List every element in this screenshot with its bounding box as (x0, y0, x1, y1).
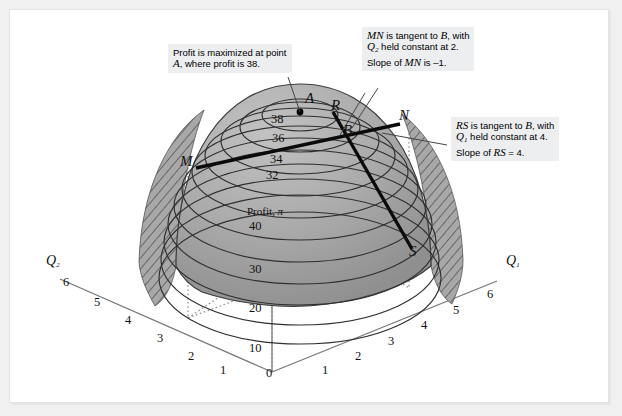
callout-mn-line3: Slope of MN is –1. (367, 57, 469, 68)
profit-axis-label: Profit, π (247, 205, 283, 217)
profit-tick-10: 10 (249, 341, 262, 356)
callout-mn-text1b: , with (447, 30, 469, 41)
profit-tick-30: 30 (249, 262, 262, 277)
callout-rs-line3: Slope of RS = 4. (456, 147, 554, 158)
callout-mn-text3b: is –1. (421, 57, 446, 68)
q1-tick-1: 1 (322, 363, 328, 378)
callout-profit-max: Profit is maximized at point A, where pr… (168, 44, 292, 73)
q1-tick-2: 2 (355, 349, 361, 364)
q1-axis-name: Q (506, 253, 516, 268)
q2-tick-4: 4 (125, 313, 131, 328)
q2-tick-6: 6 (63, 275, 69, 290)
callout-rs-line2: Q1 held constant at 4. (456, 131, 554, 146)
contour-label-34: 34 (270, 152, 283, 167)
point-S-label: S (409, 243, 417, 260)
profit-axis-label-text: Profit, (247, 205, 278, 217)
q2-tick-5: 5 (94, 295, 100, 310)
origin-label: 0 (266, 366, 272, 381)
callout-profit-max-line2: A, where profit is 38. (173, 58, 287, 69)
contour-label-38: 38 (271, 112, 284, 127)
callout-mn-text3a: Slope of (367, 57, 405, 68)
callout-rs-B: B (525, 119, 532, 131)
callout-rs-Q: Q (456, 130, 464, 142)
callout-rs-line1: RS is tangent to B, with (456, 120, 554, 131)
q2-tick-2: 2 (188, 349, 194, 364)
point-M-label: M (180, 153, 193, 170)
callout-rs-text1b: , with (532, 120, 554, 131)
figure-canvas (0, 0, 622, 416)
callout-mn-text1: is tangent to (384, 30, 441, 41)
callout-rs-text3b: = 4. (506, 147, 525, 158)
q1-tick-3: 3 (388, 334, 394, 349)
profit-hill-figure: Profit is maximized at point A, where pr… (0, 0, 622, 416)
callout-rs-text3a: Slope of (456, 147, 494, 158)
callout-rs-text1: is tangent to (468, 120, 525, 131)
callout-rs: RS is tangent to B, with Q1 held constan… (451, 117, 559, 161)
q1-tick-5: 5 (453, 303, 459, 318)
q2-tick-3: 3 (157, 331, 163, 346)
q2-axis-label: Q2 (46, 253, 60, 269)
contour-label-36: 36 (272, 131, 285, 146)
callout-rs-RS2: RS (494, 146, 506, 158)
point-R-label: R (331, 97, 340, 114)
q1-axis-label: Q1 (506, 253, 520, 269)
callout-mn: MN is tangent to B, with Q2 held constan… (362, 27, 474, 71)
q2-axis-name: Q (46, 253, 56, 268)
q1-tick-4: 4 (421, 318, 427, 333)
q1-tick-6: 6 (487, 287, 493, 302)
q1-axis-sub: 1 (516, 261, 520, 269)
callout-mn-line2: Q2 held constant at 2. (367, 41, 469, 56)
contour-label-32: 32 (266, 168, 279, 183)
callout-profit-max-A: A (173, 57, 180, 69)
callout-mn-MN: MN (367, 29, 384, 41)
profit-tick-40: 40 (249, 219, 262, 234)
callout-rs-RS: RS (456, 119, 468, 131)
point-N-label: N (399, 107, 409, 124)
profit-axis-symbol: π (278, 205, 284, 217)
profit-tick-20: 20 (249, 301, 262, 316)
callout-mn-line1: MN is tangent to B, with (367, 30, 469, 41)
callout-mn-text2: held constant at 2. (378, 41, 458, 52)
q2-axis-sub: 2 (56, 261, 60, 269)
callout-mn-Q: Q (367, 40, 375, 52)
point-A-label: A (305, 90, 314, 107)
point-B-label: B (343, 122, 352, 139)
callout-rs-text2: held constant at 4. (467, 131, 547, 142)
callout-mn-MN2: MN (405, 56, 422, 68)
callout-profit-max-rest: , where profit is 38. (180, 58, 260, 69)
callout-profit-max-line1: Profit is maximized at point (173, 47, 287, 58)
q2-tick-1: 1 (220, 363, 226, 378)
